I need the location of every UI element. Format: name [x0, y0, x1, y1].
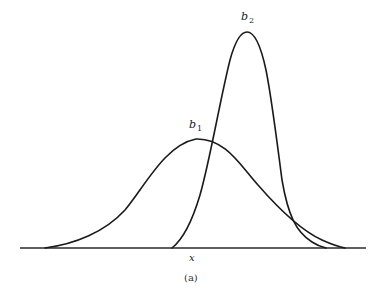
distribution-figure: b2 b1 x (a) — [0, 0, 384, 297]
label-b1: b1 — [189, 118, 202, 133]
distribution-diagram: b2 b1 x (a) — [0, 0, 384, 297]
figure-caption: (a) — [184, 272, 198, 283]
label-b2: b2 — [241, 10, 254, 25]
x-axis-label: x — [189, 252, 195, 263]
